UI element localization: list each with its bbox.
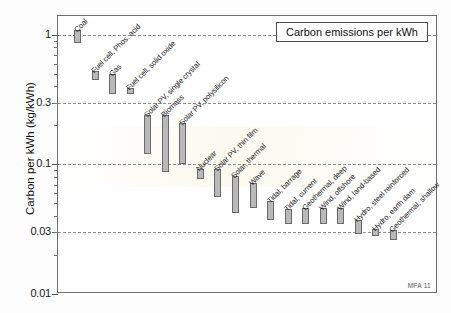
y-axis-minor-tick bbox=[54, 74, 58, 75]
y-axis-minor-tick bbox=[54, 193, 58, 194]
bar-label: Wave bbox=[248, 168, 267, 187]
y-axis-title: Carbon per kWh (kg/kWh) bbox=[24, 82, 36, 215]
credit-label: MFA 11 bbox=[408, 282, 431, 289]
y-axis-minor-tick bbox=[54, 55, 58, 56]
y-axis-tick bbox=[52, 164, 58, 165]
y-axis-tick bbox=[52, 35, 58, 36]
y-axis-minor-tick bbox=[54, 203, 58, 204]
y-axis-tick bbox=[52, 294, 58, 295]
y-axis-minor-tick bbox=[54, 177, 58, 178]
carbon-emissions-chart: CoalFuel cell, Phos. acidGasFuel cell, s… bbox=[0, 0, 451, 313]
y-axis-minor-tick bbox=[54, 64, 58, 65]
range-bar bbox=[232, 176, 239, 214]
chart-title-box: Carbon emissions per kWh bbox=[276, 22, 428, 42]
y-axis-minor-tick bbox=[54, 216, 58, 217]
y-axis-minor-tick bbox=[54, 41, 58, 42]
y-axis-minor-tick bbox=[54, 86, 58, 87]
y-axis-minor-tick bbox=[54, 185, 58, 186]
range-bar bbox=[144, 115, 151, 154]
plot-area: CoalFuel cell, Phos. acidGasFuel cell, s… bbox=[57, 15, 437, 293]
chart-title: Carbon emissions per kWh bbox=[286, 26, 418, 38]
y-axis-minor-tick bbox=[54, 125, 58, 126]
gridline bbox=[58, 103, 436, 104]
y-axis-minor-tick bbox=[54, 103, 58, 104]
y-axis-minor-tick bbox=[54, 232, 58, 233]
y-axis-title-wrap: Carbon per kWh (kg/kWh) bbox=[10, 0, 30, 313]
y-axis-minor-tick bbox=[54, 170, 58, 171]
range-bar bbox=[162, 115, 169, 171]
y-axis-minor-tick bbox=[54, 47, 58, 48]
range-bar bbox=[179, 123, 186, 165]
y-axis-minor-tick bbox=[54, 255, 58, 256]
